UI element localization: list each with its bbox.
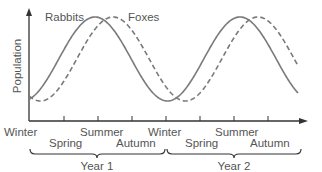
year2-brace <box>167 149 301 158</box>
y-axis-label: Population <box>11 39 23 93</box>
year-braces <box>30 149 301 158</box>
year2-label: Year 2 <box>218 160 251 172</box>
year1-brace <box>30 149 165 158</box>
rabbits-curve <box>29 17 298 101</box>
season-label: Autumn <box>116 137 156 149</box>
predator-prey-diagram: Population Rabbits Foxes WinterSpringSum… <box>0 0 322 172</box>
x-axis <box>29 116 308 124</box>
y-axis <box>26 8 32 121</box>
rabbits-label: Rabbits <box>45 11 84 23</box>
x-axis-arrow-icon <box>299 118 308 124</box>
foxes-label: Foxes <box>128 11 160 23</box>
season-label: Spring <box>49 137 82 149</box>
season-label: Winter <box>4 126 37 138</box>
y-axis-arrow-icon <box>26 8 32 16</box>
season-label: Winter <box>148 126 181 138</box>
season-labels: WinterSpringSummerAutumnWinterSpringSumm… <box>4 126 290 149</box>
year1-label: Year 1 <box>81 160 114 172</box>
season-label: Autumn <box>250 137 290 149</box>
season-label: Spring <box>185 137 218 149</box>
